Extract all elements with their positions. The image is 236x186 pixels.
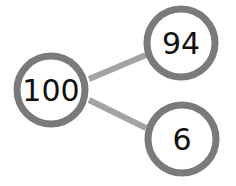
part-node-1: 94 bbox=[147, 9, 215, 77]
part-2-value: 6 bbox=[172, 122, 191, 157]
part-1-value: 94 bbox=[162, 26, 200, 61]
whole-node: 100 bbox=[17, 56, 85, 124]
connector-whole-to-part-1 bbox=[89, 55, 146, 79]
number-bond-diagram: 100 94 6 bbox=[0, 0, 236, 186]
connector-whole-to-part-2 bbox=[89, 100, 146, 128]
part-node-2: 6 bbox=[148, 105, 216, 173]
whole-value: 100 bbox=[22, 73, 79, 108]
